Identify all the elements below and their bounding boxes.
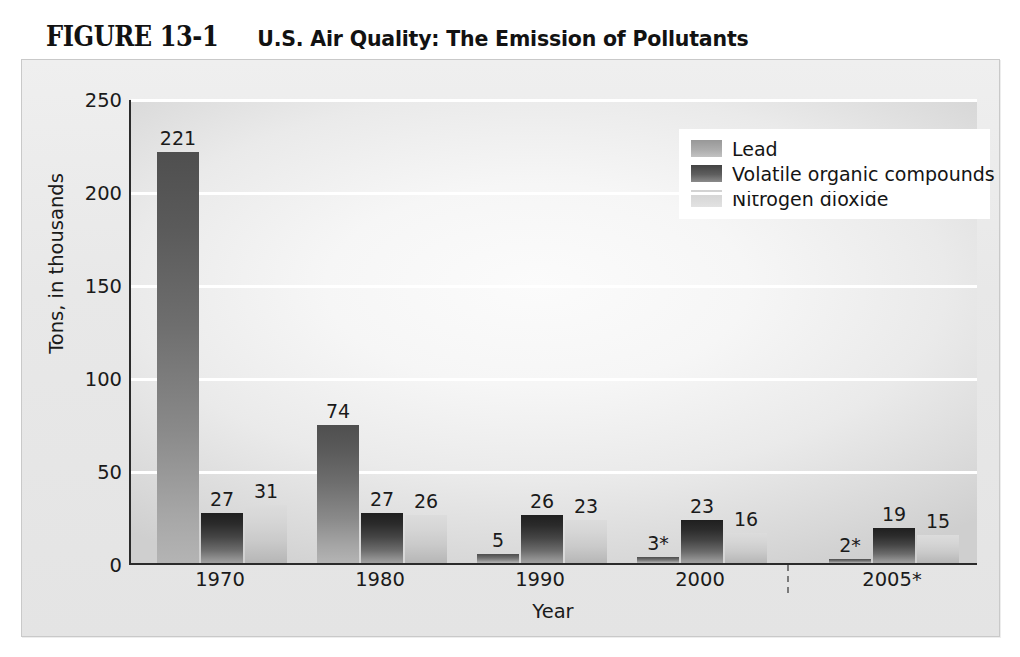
bar-no2-2000: 16 xyxy=(725,533,767,563)
chart-panel: 050100150200250 Tons, in thousands LeadV… xyxy=(21,59,1000,637)
bar-no2-1980: 26 xyxy=(405,515,447,563)
figure-number: FIGURE 13-1 xyxy=(46,20,218,53)
gridline xyxy=(131,99,977,102)
x-axis-tick-label: 2005* xyxy=(862,568,921,591)
bar-value-label: 3* xyxy=(647,532,669,554)
bar-lead-1970: 221 xyxy=(157,152,199,563)
bar-value-label: 16 xyxy=(734,508,758,530)
bar-voc-1980: 27 xyxy=(361,513,403,563)
legend-label: Lead xyxy=(732,138,778,160)
bar-value-label: 23 xyxy=(690,495,714,517)
gridline xyxy=(131,378,977,381)
bar-lead-1990: 5 xyxy=(477,554,519,563)
y-axis-tick-labels: 050100150200250 xyxy=(62,100,122,565)
bar-value-label: 74 xyxy=(326,400,350,422)
gridline xyxy=(131,471,977,474)
x-axis-title: Year xyxy=(129,600,977,623)
bar-no2-1970: 31 xyxy=(245,505,287,563)
bar-lead-2005: 2* xyxy=(829,559,871,563)
bar-value-label: 26 xyxy=(530,490,554,512)
legend-item: Volatile organic compounds xyxy=(691,161,980,186)
bar-no2-2005: 15 xyxy=(917,535,959,563)
bar-value-label: 5 xyxy=(492,529,504,551)
bar-voc-2000: 23 xyxy=(681,520,723,563)
bar-value-label: 23 xyxy=(574,495,598,517)
x-axis-tick-label: 1980 xyxy=(355,568,405,591)
bar-value-label: 27 xyxy=(370,488,394,510)
gridline xyxy=(131,285,977,288)
bar-lead-2000: 3* xyxy=(637,557,679,563)
legend-item: Lead xyxy=(691,136,980,161)
x-axis-tick-label: 1990 xyxy=(515,568,565,591)
y-axis-tick-label: 150 xyxy=(85,275,122,298)
bar-voc-2005: 19 xyxy=(873,528,915,563)
x-axis-tick-labels: 19701980199020002005* xyxy=(129,568,977,598)
y-axis-tick-label: 50 xyxy=(97,461,122,484)
bar-value-label: 19 xyxy=(882,503,906,525)
chart-legend: LeadVolatile organic compoundsNitrogen d… xyxy=(679,129,990,219)
legend-label: Volatile organic compounds xyxy=(732,163,995,185)
bar-no2-1990: 23 xyxy=(565,520,607,563)
y-axis-tick-label: 100 xyxy=(85,368,122,391)
bar-value-label: 26 xyxy=(414,490,438,512)
bar-voc-1990: 26 xyxy=(521,515,563,563)
legend-swatch-icon xyxy=(691,165,722,182)
x-axis-tick-label: 2000 xyxy=(675,568,725,591)
bar-value-label: 15 xyxy=(926,510,950,532)
bar-value-label: 221 xyxy=(160,127,196,149)
plot-area: LeadVolatile organic compoundsNitrogen d… xyxy=(129,100,977,565)
gridline xyxy=(131,192,977,195)
bar-lead-1980: 74 xyxy=(317,425,359,563)
bar-voc-1970: 27 xyxy=(201,513,243,563)
legend-swatch-icon xyxy=(691,140,722,157)
x-axis-tick-label: 1970 xyxy=(195,568,245,591)
figure-title: U.S. Air Quality: The Emission of Pollut… xyxy=(257,27,748,51)
figure-header: FIGURE 13-1 U.S. Air Quality: The Emissi… xyxy=(46,20,748,56)
bar-value-label: 27 xyxy=(210,488,234,510)
bar-value-label: 2* xyxy=(839,534,861,556)
y-axis-tick-label: 0 xyxy=(110,554,122,577)
y-axis-tick-label: 250 xyxy=(85,89,122,112)
legend-item: Nitrogen dioxide xyxy=(691,186,980,211)
y-axis-title: Tons, in thousands xyxy=(45,114,68,414)
bar-value-label: 31 xyxy=(254,480,278,502)
y-axis-tick-label: 200 xyxy=(85,182,122,205)
